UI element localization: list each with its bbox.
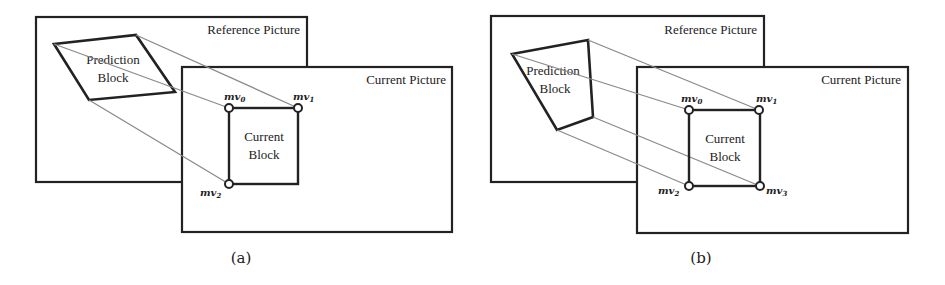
current-picture-frame (637, 67, 908, 233)
reference-picture-label: Reference Picture (207, 22, 300, 37)
control-point-mv1 (294, 104, 302, 112)
control-point-mv0 (685, 106, 693, 114)
affine-motion-diagram: Reference Picture Prediction Block Curre… (0, 0, 945, 285)
prediction-block-label-line2: Block (539, 81, 571, 96)
current-block-label-line1: Current (705, 131, 745, 146)
prediction-block-label-line1: Prediction (526, 63, 580, 78)
control-point-mv3 (756, 182, 764, 190)
caption-a: (a) (231, 249, 252, 267)
current-block-label-line2: Block (248, 147, 280, 162)
current-block-label-line1: Current (244, 129, 284, 144)
caption-b: (b) (690, 249, 711, 267)
current-picture-frame (182, 67, 452, 232)
control-point-mv0 (225, 104, 233, 112)
reference-picture-label: Reference Picture (664, 22, 757, 37)
prediction-block-label-line2: Block (97, 70, 129, 85)
control-point-mv2 (225, 180, 233, 188)
control-point-mv1 (755, 106, 763, 114)
current-picture-label: Current Picture (366, 72, 446, 87)
control-point-mv2 (685, 182, 693, 190)
panel-a: Reference Picture Prediction Block Curre… (36, 17, 452, 267)
panel-b: Reference Picture Prediction Block Curre… (491, 16, 908, 267)
prediction-block-label-line1: Prediction (86, 52, 140, 67)
current-picture-label: Current Picture (821, 72, 901, 87)
current-block-label-line2: Block (709, 149, 741, 164)
